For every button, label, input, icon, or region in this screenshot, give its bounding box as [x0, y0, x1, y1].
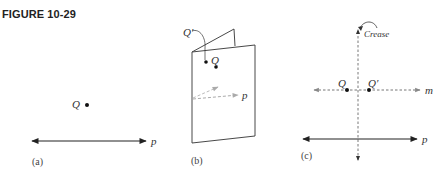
crease-arrow-down-icon — [356, 156, 360, 161]
image-q-prime-label: Q′ — [368, 77, 379, 89]
caption-b: (b) — [191, 155, 203, 167]
line-p-label: p — [150, 135, 157, 147]
caption-a: (a) — [32, 156, 43, 168]
panel-c: Crease m Q Q′ p (c) — [301, 22, 433, 162]
point-q — [214, 65, 218, 69]
point-q — [85, 103, 89, 107]
crease-arrow-up-icon — [356, 29, 360, 34]
figure-canvas: Q p (a) Q′ Q p (b) Crease m Q — [0, 0, 446, 172]
crease-label: Crease — [364, 29, 389, 39]
caption-c: (c) — [301, 150, 312, 162]
panel-b: Q′ Q p (b) — [183, 26, 255, 167]
panel-a: Q p (a) — [32, 98, 157, 168]
point-q-label: Q — [72, 98, 80, 110]
line-m-label: m — [425, 84, 433, 96]
point-q-prime — [204, 60, 208, 64]
image-q-prime-label: Q′ — [183, 26, 194, 38]
point-q-label: Q — [211, 54, 219, 66]
line-p-label: p — [241, 89, 248, 101]
line-p-label: p — [421, 133, 428, 145]
point-q — [345, 88, 349, 92]
point-q-prime — [367, 88, 371, 92]
fold-arrowhead-icon — [358, 26, 363, 31]
point-q-label: Q — [338, 77, 346, 89]
